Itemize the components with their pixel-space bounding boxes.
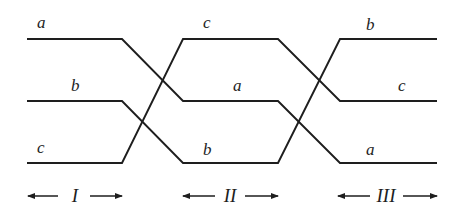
section-2-middle-label: a (233, 76, 242, 95)
section-1-label: I (71, 185, 80, 206)
section-3-span: III (338, 185, 437, 206)
section-2-bottom-label: b (203, 140, 212, 159)
section-1-top-label: a (37, 13, 46, 32)
section-3-bottom-label: a (366, 140, 375, 159)
section-2-label: II (223, 185, 238, 206)
section-1-middle-label: b (71, 76, 80, 95)
section-1-bottom-label: c (37, 138, 45, 157)
section-3-label: III (376, 185, 398, 206)
section-2-span: II (183, 185, 278, 206)
section-1-span: I (28, 185, 122, 206)
section-3-top-label: b (366, 15, 375, 34)
section-3-middle-label: c (398, 76, 406, 95)
section-2-top-label: c (203, 13, 211, 32)
strand-diagram: a b c c a b b c a I II III (0, 0, 458, 215)
